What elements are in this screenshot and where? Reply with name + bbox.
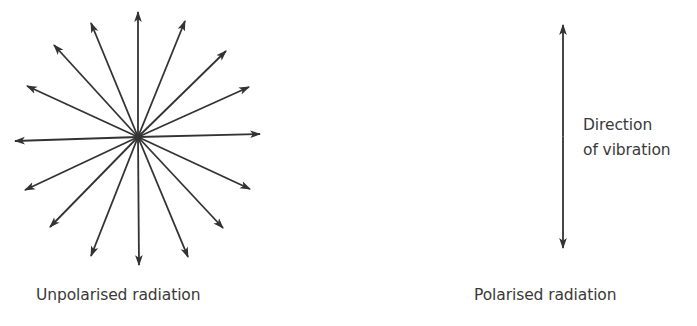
starburst-center — [135, 134, 141, 140]
unpolarised-starburst — [15, 12, 260, 265]
radiation-arrow-5 — [138, 137, 250, 189]
radiation-arrow-4 — [138, 134, 260, 137]
radiation-arrow-13 — [27, 86, 138, 137]
direction-label-line2: of vibration — [583, 138, 671, 163]
arrow-diagram-svg — [0, 0, 697, 326]
radiation-arrow-6 — [138, 137, 223, 228]
radiation-arrow-8 — [138, 137, 139, 265]
radiation-arrow-10 — [50, 137, 138, 227]
radiation-arrow-2 — [138, 51, 226, 137]
direction-of-vibration-label: Direction of vibration — [583, 113, 671, 163]
direction-label-line1: Direction — [583, 113, 671, 138]
radiation-arrow-15 — [91, 23, 138, 137]
polarisation-diagram: Unpolarised radiation Direction of vibra… — [0, 0, 697, 326]
radiation-arrow-12 — [15, 137, 138, 141]
radiation-arrow-14 — [54, 45, 138, 137]
radiation-arrow-7 — [138, 137, 188, 257]
caption-polarised-radiation: Polarised radiation — [474, 288, 616, 304]
caption-unpolarised-radiation: Unpolarised radiation — [36, 288, 200, 304]
